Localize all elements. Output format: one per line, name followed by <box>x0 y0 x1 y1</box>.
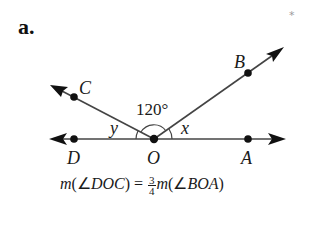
formula-rhs-angle: BOA <box>187 175 218 192</box>
point-A <box>244 135 252 143</box>
formula-rhs-close: ) <box>219 175 224 192</box>
angle-relation-formula: m(∠DOC) = 34m(∠BOA) <box>60 174 224 196</box>
arrow-C-icon <box>50 85 68 97</box>
angle-x-label: x <box>180 118 189 138</box>
point-D <box>70 135 78 143</box>
formula-lhs-m: m <box>60 175 72 192</box>
ray-OB <box>154 53 276 139</box>
formula-rhs-open: (∠ <box>168 175 187 192</box>
point-B <box>244 69 252 77</box>
label-A: A <box>240 148 253 168</box>
point-C <box>70 93 78 101</box>
arc-y <box>136 131 138 139</box>
formula-rhs-m: m <box>157 175 169 192</box>
formula-lhs-open: (∠ <box>72 175 91 192</box>
arc-x <box>169 129 172 139</box>
formula-lhs-angle: DOC <box>91 175 125 192</box>
label-B: B <box>234 52 245 72</box>
arc-120 <box>141 125 166 132</box>
point-O <box>150 135 158 143</box>
fraction: 34 <box>148 175 156 196</box>
angle-120-label: 120° <box>136 100 168 119</box>
fraction-denominator: 4 <box>148 186 156 196</box>
arrow-B-icon <box>266 47 284 62</box>
label-O: O <box>147 148 160 168</box>
formula-equals: = <box>130 175 147 192</box>
label-C: C <box>79 78 92 98</box>
angle-y-label: y <box>108 118 118 138</box>
label-D: D <box>66 148 80 168</box>
